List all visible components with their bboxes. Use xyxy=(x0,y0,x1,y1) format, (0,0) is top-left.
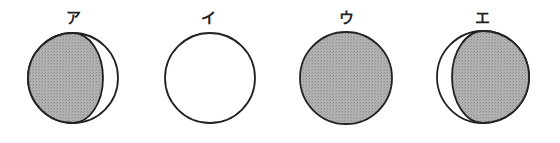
figure-a xyxy=(28,33,118,123)
circle-i-outline xyxy=(165,33,255,123)
figure-i xyxy=(165,33,255,123)
shadow-region-e xyxy=(452,31,529,123)
shadow-region-a xyxy=(28,33,103,123)
moon-phase-diagram xyxy=(0,0,560,143)
circle-u-shaded xyxy=(300,32,392,124)
figure-u xyxy=(300,32,392,124)
figure-e xyxy=(437,31,529,123)
